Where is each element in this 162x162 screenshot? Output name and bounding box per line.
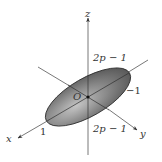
y-extent-annotation: −1: [126, 85, 141, 96]
diagram-canvas: z x y O 2p − 1 2p − 1 −1 1: [0, 0, 162, 162]
x-extent-annotation: 1: [40, 126, 46, 137]
x-axis-label: x: [6, 133, 12, 144]
y-axis-label: y: [139, 128, 146, 139]
z-negative-annotation: 2p − 1: [92, 123, 127, 134]
origin-point: [86, 95, 89, 98]
z-axis-label: z: [84, 8, 91, 19]
origin-label: O: [73, 91, 81, 102]
z-positive-annotation: 2p − 1: [92, 52, 127, 63]
